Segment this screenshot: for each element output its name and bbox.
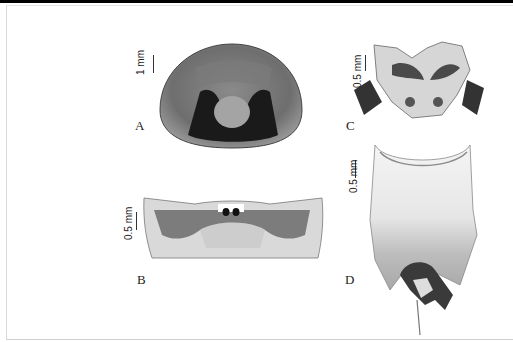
specimen-b-image [140,190,325,265]
scale-bar-a [153,55,154,73]
scale-bar-b [136,212,137,230]
scale-label-d: 0.5 mm [348,160,359,193]
panel-label-b: B [137,272,146,288]
scale-label-c: 0.5 mm [352,55,363,88]
panel-label-c: C [346,118,355,134]
scale-bar-c [365,55,366,71]
specimen-a-image [150,40,310,152]
panel-label-d: D [345,272,354,288]
panel-label-a: A [135,118,144,134]
specimen-d-image [365,140,485,340]
top-bar [0,0,513,3]
scale-label-b: 0.5 mm [123,207,134,240]
specimen-c-image [352,40,497,120]
scale-label-a: 1 mm [135,50,146,75]
